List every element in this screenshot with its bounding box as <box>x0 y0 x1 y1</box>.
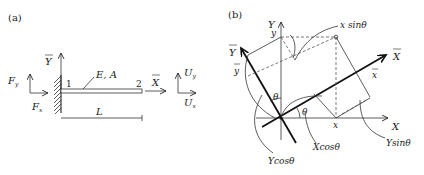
origin-point <box>279 116 282 119</box>
x-cos-theta-label: Xcosθ <box>312 142 340 152</box>
node-2-label: 2 <box>136 79 142 89</box>
panel-a: (a) Y 1 2 E, A X L <box>7 12 196 121</box>
node-1-label: 1 <box>66 79 72 89</box>
force-y-label: Fy <box>7 75 19 88</box>
xbar-axis-label: X <box>392 51 401 62</box>
coord-y-label: y <box>270 28 277 38</box>
fixed-support-wall <box>54 75 61 114</box>
beam-element <box>61 89 142 93</box>
panel-b-label: (b) <box>228 9 242 20</box>
material-label: E, A <box>95 69 117 80</box>
coord-xbar-label: x <box>372 70 377 80</box>
disp-y-label: Uy <box>184 67 196 80</box>
theta-label-1: θ <box>273 92 279 102</box>
length-label: L <box>95 106 103 117</box>
force-x-label: Fx <box>31 101 43 113</box>
ybar-label: Y <box>45 56 53 67</box>
disp-x-label: Ux <box>184 97 196 109</box>
displacement-triad: Uy Ux <box>178 67 196 109</box>
x-sin-theta-label: x sinθ <box>340 20 367 30</box>
ybar-axis-label: Y <box>229 47 237 58</box>
ybar-axis <box>241 48 296 143</box>
xbar-label: X <box>151 77 160 88</box>
y-sin-theta-label: Ysinθ <box>386 138 411 148</box>
x-axis-label: X <box>391 121 400 132</box>
figure-canvas: (a) Y 1 2 E, A X L <box>0 0 424 175</box>
coord-ybar-label: y <box>233 66 240 76</box>
panel-a-label: (a) <box>8 12 22 23</box>
coord-x-label: x <box>333 120 338 130</box>
y-cos-theta-label: Ycosθ <box>268 156 295 166</box>
panel-b: (b) Y X X Y y x y x θ <box>228 9 411 166</box>
force-triad: Fy Fx <box>7 74 48 113</box>
